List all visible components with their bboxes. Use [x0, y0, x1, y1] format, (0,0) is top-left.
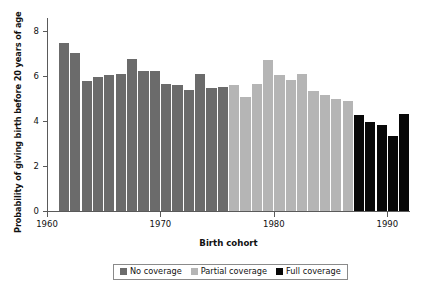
bar: [82, 81, 92, 211]
bar: [229, 85, 239, 211]
y-tick-mark: [43, 166, 47, 167]
bar: [308, 91, 318, 211]
x-tick-mark: [387, 212, 388, 217]
x-tick-label: 1990: [367, 219, 407, 229]
y-tick-label: 4: [21, 117, 39, 125]
legend-swatch-icon: [276, 268, 283, 275]
bar: [59, 43, 69, 211]
legend-item: Full coverage: [276, 267, 341, 276]
y-tick-mark: [43, 121, 47, 122]
y-tick-mark: [43, 31, 47, 32]
bar: [365, 122, 375, 211]
bar: [93, 77, 103, 211]
y-tick-label: 8: [21, 27, 39, 35]
legend-swatch-icon: [191, 268, 198, 275]
legend-label: Partial coverage: [201, 267, 267, 276]
chart-legend: No coveragePartial coverageFull coverage: [113, 264, 348, 280]
x-tick-label: 1970: [140, 219, 180, 229]
bar: [240, 97, 250, 211]
legend-label: Full coverage: [286, 267, 341, 276]
x-axis-line: [47, 211, 410, 212]
legend-swatch-icon: [120, 268, 127, 275]
y-tick-label: 6: [21, 72, 39, 80]
bar: [343, 101, 353, 211]
bar: [70, 53, 80, 211]
x-tick-mark: [274, 212, 275, 217]
bar: [116, 74, 126, 211]
bar: [331, 99, 341, 211]
bar: [150, 71, 160, 211]
legend-item: Partial coverage: [191, 267, 267, 276]
x-tick-mark: [47, 212, 48, 217]
y-tick-label: 2: [21, 162, 39, 170]
x-tick-label: 1980: [254, 219, 294, 229]
plot-area: 02468 1960197019801990: [47, 18, 410, 211]
bar: [286, 80, 296, 212]
bar: [274, 75, 284, 211]
x-tick-mark: [160, 212, 161, 217]
bar: [263, 60, 273, 211]
y-tick-mark: [43, 76, 47, 77]
bar: [138, 71, 148, 211]
bar: [104, 75, 114, 211]
bar: [184, 90, 194, 211]
legend-label: No coverage: [130, 267, 182, 276]
bar: [172, 85, 182, 211]
bar-series-container: [47, 18, 410, 211]
bar: [388, 136, 398, 211]
bar: [127, 59, 137, 211]
bar: [354, 115, 364, 211]
x-tick-label: 1960: [27, 219, 67, 229]
bar: [377, 125, 387, 211]
x-axis-title: Birth cohort: [47, 238, 410, 248]
bar: [252, 84, 262, 211]
y-tick-label: 0: [21, 207, 39, 215]
chart-figure: Probability of giving birth before 20 ye…: [0, 0, 422, 293]
bar: [399, 114, 409, 211]
legend-item: No coverage: [120, 267, 182, 276]
bar: [297, 74, 307, 211]
bar: [218, 87, 228, 211]
bar: [161, 84, 171, 211]
bar: [320, 95, 330, 211]
bar: [206, 88, 216, 211]
bar: [195, 74, 205, 211]
